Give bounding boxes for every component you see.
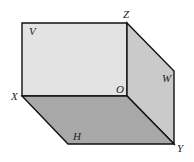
label-h: H <box>73 131 81 142</box>
label-v: V <box>29 26 36 37</box>
label-o: O <box>116 84 124 95</box>
label-w: W <box>162 73 171 84</box>
label-y: Y <box>177 143 183 154</box>
label-x: X <box>11 91 18 102</box>
label-z: Z <box>123 9 129 20</box>
v-plane <box>22 23 127 96</box>
